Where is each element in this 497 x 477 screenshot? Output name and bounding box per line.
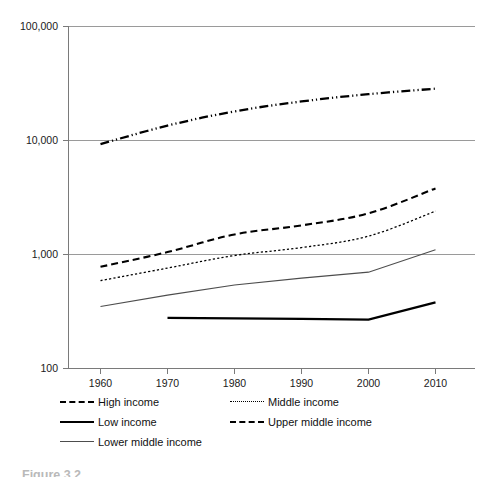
legend-item-middle-income[interactable]: Middle income [230, 397, 339, 408]
legend-item-lower-middle-income[interactable]: Lower middle income [60, 437, 230, 448]
legend-item-upper-middle-income[interactable]: Upper middle income [230, 417, 372, 428]
chart-figure: 100,000 10,000 1,000 100 1960 1970 1980 … [0, 0, 497, 477]
y-tick-label-1000: 1,000 [32, 248, 58, 260]
y-axis-tickmarks [63, 27, 68, 369]
y-tick-label-100000: 100,000 [20, 20, 58, 32]
series-line-upper-middle-income [101, 188, 436, 266]
legend-label: Upper middle income [268, 417, 372, 428]
x-tick-label-1980: 1980 [223, 377, 247, 389]
series-line-low-income [168, 302, 436, 319]
legend-label: Low income [98, 417, 157, 428]
x-axis-tickmarks [101, 369, 436, 375]
series-line-lower-middle-income [101, 250, 436, 307]
y-axis-labels: 100,000 10,000 1,000 100 [20, 20, 58, 374]
y-tick-label-10000: 10,000 [26, 134, 58, 146]
legend-label: Middle income [268, 397, 339, 408]
legend-item-high-income[interactable]: High income [60, 397, 230, 408]
chart-legend: High incomeMiddle incomeLow incomeUpper … [60, 392, 480, 452]
legend-item-low-income[interactable]: Low income [60, 417, 230, 428]
legend-row: Lower middle income [60, 432, 480, 452]
x-tick-label-1990: 1990 [290, 377, 314, 389]
x-tick-label-2010: 2010 [424, 377, 448, 389]
figure-caption: Figure 3.2 [22, 468, 81, 477]
x-tick-label-1960: 1960 [89, 377, 113, 389]
legend-label: Lower middle income [98, 437, 202, 448]
x-tick-label-2000: 2000 [357, 377, 381, 389]
legend-row: High incomeMiddle income [60, 392, 480, 412]
chart-series-group [101, 89, 436, 320]
x-tick-label-1970: 1970 [156, 377, 180, 389]
series-line-high-income [101, 89, 436, 144]
x-axis-labels: 1960 1970 1980 1990 2000 2010 [89, 377, 448, 389]
series-line-middle-income [101, 211, 436, 280]
legend-label: High income [98, 397, 159, 408]
y-tick-label-100: 100 [40, 362, 58, 374]
legend-row: Low incomeUpper middle income [60, 412, 480, 432]
